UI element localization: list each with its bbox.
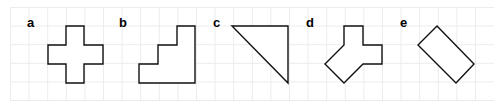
staircase-shape	[139, 26, 195, 83]
panel-label-c: c	[213, 15, 220, 30]
panel-label-e: e	[400, 15, 407, 30]
panel-label-b: b	[119, 15, 127, 30]
cross-shape	[48, 26, 103, 83]
panel-a: a	[27, 15, 103, 83]
panel-c: c	[213, 15, 288, 83]
rotated-rectangle-shape	[418, 26, 474, 83]
shapes-figure: a b c d e	[0, 0, 501, 106]
panel-label-d: d	[306, 15, 314, 30]
right-triangle-shape	[232, 26, 288, 83]
panel-label-a: a	[27, 15, 35, 30]
shape-panels: a b c d e	[27, 15, 474, 83]
panel-e: e	[400, 15, 474, 83]
irregular-polygon-shape	[325, 26, 382, 83]
panel-b: b	[119, 15, 195, 83]
panel-d: d	[306, 15, 382, 83]
